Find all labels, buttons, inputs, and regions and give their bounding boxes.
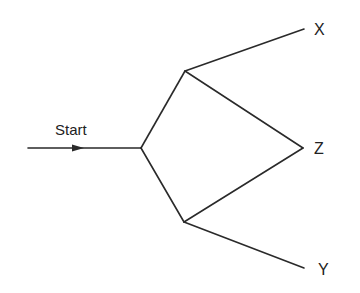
- edge-junction-upper: [141, 71, 185, 148]
- node-label-y: Y: [318, 261, 329, 278]
- edge-lower-y: [184, 222, 304, 268]
- arrowhead-icon: [72, 145, 84, 152]
- start-label: Start: [55, 121, 88, 138]
- edge-upper-x: [185, 29, 304, 71]
- edge-junction-lower: [141, 148, 184, 222]
- node-label-z: Z: [314, 140, 324, 157]
- branching-diagram: Start X Z Y: [0, 0, 360, 293]
- edge-lower-z: [184, 148, 303, 222]
- edge-upper-z: [185, 71, 303, 148]
- node-label-x: X: [314, 21, 325, 38]
